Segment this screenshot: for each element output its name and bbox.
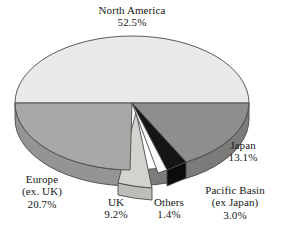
slice-label-uk: UK 9.2% (92, 196, 140, 221)
slice-label-others-value: 1.4% (142, 208, 196, 220)
slice-label-pacific-basin-name: Pacific Basin (192, 184, 278, 196)
slice-label-others: Others 1.4% (142, 196, 196, 221)
slice-label-others-name: Others (142, 196, 196, 208)
slice-label-europe-value: 20.7% (2, 198, 82, 210)
slice-label-pacific-basin: Pacific Basin (ex Japan) 3.0% (192, 184, 278, 221)
slice-label-pacific-basin-value: 3.0% (192, 209, 278, 221)
slice-label-uk-name: UK (92, 196, 140, 208)
slice-label-north-america: North America 52.5% (66, 4, 198, 29)
pie-slice-europe (15, 103, 132, 170)
slice-label-europe-name: Europe (2, 173, 82, 185)
slice-label-japan-name: Japan (210, 139, 276, 151)
slice-label-pacific-basin-qualifier: (ex Japan) (192, 196, 278, 208)
slice-label-europe: Europe (ex. UK) 20.7% (2, 173, 82, 210)
slice-label-japan: Japan 13.1% (210, 139, 276, 164)
pie-slice-north-america (15, 36, 249, 103)
slice-label-north-america-name: North America (66, 4, 198, 16)
pie-chart: North America 52.5% Japan 13.1% Europe (… (0, 0, 284, 226)
slice-label-uk-value: 9.2% (92, 208, 140, 220)
slice-label-japan-value: 13.1% (210, 151, 276, 163)
slice-label-europe-qualifier: (ex. UK) (2, 185, 82, 197)
slice-label-north-america-value: 52.5% (66, 16, 198, 28)
